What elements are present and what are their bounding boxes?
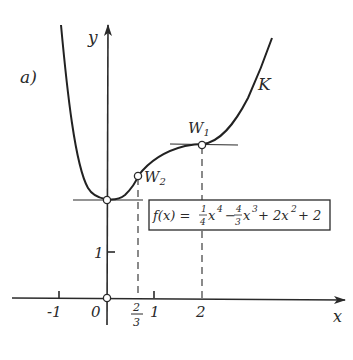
- panel-label: a): [20, 67, 37, 87]
- x-tick-label-2-3-num: 2: [132, 301, 140, 314]
- x-tick-label-2: 2: [195, 303, 206, 321]
- formula-exp4: 4: [216, 204, 223, 214]
- x-axis: [12, 298, 345, 300]
- curve-k-label: K: [257, 74, 272, 94]
- formula-2x: + 2x: [258, 208, 289, 223]
- x-axis-label: x: [333, 307, 342, 326]
- formula-frac2-num: 4: [235, 204, 242, 214]
- point-origin: [103, 294, 110, 301]
- x-tick-label-2-3-den: 3: [133, 316, 140, 329]
- point-min: [103, 196, 110, 203]
- formula-x4: x: [208, 208, 216, 223]
- y-axis-label: y: [87, 27, 98, 47]
- formula-frac1-den: 4: [199, 217, 206, 227]
- y-tick-label-1: 1: [94, 244, 104, 262]
- x-tick-label-neg1: -1: [47, 303, 62, 321]
- function-plot: a) y x K W1 W2 -1 0 2 3 1 2 1 f(x) = 1 4…: [0, 0, 353, 360]
- y-axis: [107, 25, 108, 325]
- point-w1: [198, 141, 205, 148]
- w2-label: W2: [144, 168, 166, 187]
- curve-k: [61, 25, 272, 199]
- formula-lhs: f(x) =: [152, 208, 190, 223]
- formula-const: + 2: [298, 208, 321, 223]
- x-tick-label-1: 1: [150, 303, 160, 321]
- point-w2: [134, 172, 141, 179]
- formula-frac1-num: 1: [201, 204, 207, 214]
- x-tick-label-0: 0: [91, 303, 101, 321]
- formula-exp2: 2: [290, 204, 297, 214]
- formula-frac2-den: 3: [235, 217, 241, 227]
- formula-x3: x: [243, 208, 251, 223]
- w1-label: W1: [188, 119, 210, 138]
